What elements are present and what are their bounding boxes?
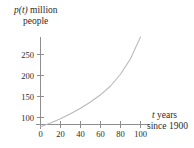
x-axis-label-line-2: since 1900 xyxy=(147,121,188,132)
exponential-population-graph: 250 200 150 100 0 20 40 60 80 100 p(t) m… xyxy=(0,0,194,148)
x-tick-label-60: 60 xyxy=(90,129,111,139)
y-axis-label: p(t) million people xyxy=(14,5,58,27)
y-tick-label-100: 100 xyxy=(10,113,34,123)
x-tick-label-40: 40 xyxy=(70,129,91,139)
y-axis-label-variable: p(t) xyxy=(14,5,28,15)
y-axis-label-line-1: p(t) million xyxy=(14,5,58,16)
x-tick-label-0: 0 xyxy=(30,129,51,139)
y-tick-label-150: 150 xyxy=(10,92,34,102)
x-axis-label-line-1: t years xyxy=(147,110,188,121)
x-tick-label-80: 80 xyxy=(110,129,131,139)
y-axis-label-units: million xyxy=(28,5,58,15)
x-axis-label-units: years xyxy=(155,110,177,120)
population-curve xyxy=(41,37,141,127)
y-tick-label-200: 200 xyxy=(10,71,34,81)
x-tick-label-20: 20 xyxy=(50,129,71,139)
y-axis-label-line-2: people xyxy=(14,16,58,27)
x-axis-label: t years since 1900 xyxy=(147,110,188,132)
y-tick-label-250: 250 xyxy=(10,50,34,60)
